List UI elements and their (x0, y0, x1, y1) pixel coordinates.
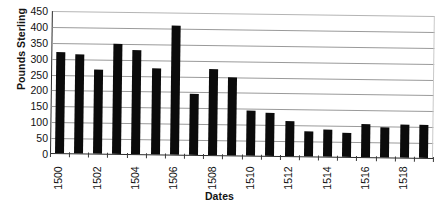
bar-series (51, 11, 435, 158)
plot-area-wrapper (50, 11, 435, 159)
y-tick-label-300: 300 (20, 54, 48, 64)
bar-1505 (151, 68, 161, 155)
bar-1519 (419, 124, 428, 157)
bar-1514 (323, 130, 332, 157)
bar-1504 (131, 50, 141, 154)
bar-1509 (227, 77, 237, 156)
y-tick-label-200: 200 (20, 85, 48, 95)
bar-1513 (304, 131, 313, 156)
bar-1507 (189, 93, 199, 154)
plot-area (50, 11, 435, 159)
bar-1508 (208, 69, 218, 155)
y-tick-label-100: 100 (20, 117, 48, 127)
y-tick-label-250: 250 (20, 70, 48, 80)
y-tick-label-400: 400 (20, 22, 48, 32)
bar-1500 (55, 52, 65, 153)
bar-1503 (112, 44, 122, 154)
bar-1517 (380, 127, 389, 157)
bar-1511 (265, 113, 275, 156)
bar-1502 (93, 69, 103, 153)
y-tick-label-350: 350 (20, 38, 48, 48)
x-axis-title: Dates (0, 190, 439, 202)
y-tick-label-150: 150 (20, 101, 48, 111)
bar-1516 (361, 124, 370, 157)
y-tick-label-50: 50 (20, 133, 48, 143)
y-tick-label-0: 0 (20, 149, 48, 159)
x-tick-20 (433, 157, 434, 162)
bar-1515 (342, 133, 351, 157)
bar-1501 (74, 54, 84, 154)
bar-1518 (399, 125, 408, 158)
bar-1512 (285, 121, 294, 156)
bar-chart-screenshot: Pounds Sterling 450400350300250200150100… (0, 0, 439, 206)
bar-1510 (246, 110, 256, 155)
bar-1506 (170, 26, 181, 155)
y-axis-tick-labels: 450400350300250200150100500 (18, 0, 48, 206)
y-tick-label-450: 450 (20, 6, 48, 16)
